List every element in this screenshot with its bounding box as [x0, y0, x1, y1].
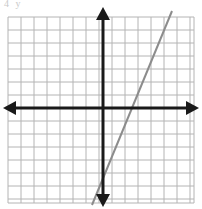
x-axis-left-arrowhead: [3, 101, 16, 115]
coordinate-plane-graph: [0, 0, 202, 209]
y-axis-down-arrowhead: [96, 194, 110, 207]
grid-lines: [8, 17, 194, 203]
y-axis-up-arrowhead: [96, 7, 110, 20]
x-axis-right-arrowhead: [186, 101, 199, 115]
x-axis: [3, 101, 199, 115]
graph-screenshot: 4 y: [0, 0, 202, 209]
